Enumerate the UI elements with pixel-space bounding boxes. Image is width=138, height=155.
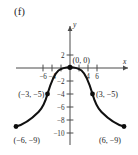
y-axis-arrow-icon: [68, 26, 73, 31]
x-tick-label-neg6: −6: [39, 73, 47, 81]
point-label-neg3-neg5: (−3, −5): [18, 90, 45, 99]
point-label-neg6-neg9: (−6, −9): [14, 136, 41, 145]
y-tick-label-neg4: −4: [57, 91, 65, 99]
x-axis-name: x: [122, 57, 127, 66]
point-label-origin: (0, 0): [73, 56, 91, 65]
y-tick-label-neg10: −10: [53, 130, 65, 138]
data-point-pos6-neg9: [122, 124, 127, 129]
y-axis-name: y: [72, 20, 77, 29]
graph-plot: x y −6 −4 4 6 2 −2 −4 −6 −8 −10 (0, 0) (…: [0, 0, 138, 155]
x-axis-arrow-icon: [123, 66, 128, 71]
point-label-pos3-neg5: (3, −5): [96, 90, 118, 99]
data-point-origin: [67, 65, 72, 70]
y-tick-label-neg6: −6: [57, 104, 65, 112]
data-point-neg3-neg5: [45, 92, 50, 97]
data-point-neg6-neg9: [14, 124, 19, 129]
y-tick-label-neg8: −8: [57, 117, 65, 125]
point-label-pos6-neg9: (6, −9): [99, 136, 121, 145]
x-tick-label-pos6: 6: [95, 73, 99, 81]
figure-container: (f) x y −6 −4 4 6 2 −2 −4 −6 −: [0, 0, 138, 155]
y-tick-label-neg2: −2: [57, 78, 65, 86]
y-tick-label-pos2: 2: [61, 52, 65, 60]
data-point-pos3-neg5: [90, 92, 95, 97]
